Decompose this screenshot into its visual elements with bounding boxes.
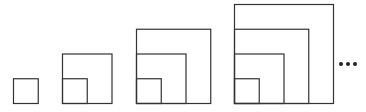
figures-group xyxy=(14,5,334,104)
figure-stage-2 xyxy=(63,54,113,104)
square-size-3 xyxy=(137,29,211,103)
nested-squares-diagram xyxy=(0,0,366,112)
continuation-ellipsis xyxy=(339,62,357,66)
figure-stage-3 xyxy=(137,29,211,103)
ellipsis-dot xyxy=(346,62,350,66)
ellipsis-dot xyxy=(353,62,357,66)
square-size-1 xyxy=(14,79,39,104)
square-size-1 xyxy=(235,79,260,104)
figure-stage-4 xyxy=(235,5,334,104)
figure-stage-1 xyxy=(14,79,39,104)
ellipsis-dot xyxy=(339,62,343,66)
square-size-3 xyxy=(235,29,309,103)
square-size-1 xyxy=(137,79,162,104)
square-size-1 xyxy=(63,79,88,104)
